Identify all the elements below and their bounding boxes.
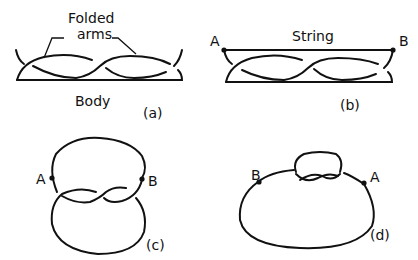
string-label: String (292, 28, 334, 44)
body-label: Body (75, 93, 110, 109)
point-a-dot-c (49, 175, 54, 180)
leader-line-right (112, 38, 136, 54)
point-a-dot-d (361, 180, 366, 185)
arm-twist (33, 56, 170, 78)
string-right-hook (384, 50, 393, 68)
point-a-label: A (210, 33, 220, 49)
body-right-hook (174, 50, 182, 66)
arm-twist-b (242, 58, 378, 80)
panel-d: B A (d) (240, 152, 390, 248)
panel-a: Folded arms Body (a) (16, 10, 182, 121)
point-b-label-c: B (148, 173, 158, 189)
knot-upper-loop (295, 152, 341, 172)
knot-diagram: Folded arms Body (a) A String B (b) A B (0, 0, 418, 260)
caption-b: (b) (340, 97, 360, 113)
point-b-dot-d (256, 179, 261, 184)
lower-loop (52, 189, 145, 254)
arm-lower-right-b (314, 69, 376, 80)
point-a-label-d: A (370, 169, 380, 185)
body-left-hook (16, 50, 24, 64)
arm-lower-right (106, 68, 166, 78)
folded-label: Folded (68, 10, 114, 26)
panel-c: A B (c) (36, 138, 165, 254)
string-left-hook (224, 50, 232, 64)
arms-label: arms (77, 26, 112, 42)
upper-loop (52, 138, 145, 192)
caption-d: (d) (370, 227, 390, 243)
point-b-label: B (399, 33, 409, 49)
caption-c: (c) (146, 237, 165, 253)
point-a-label-c: A (36, 171, 46, 187)
panel-b: A String B (b) (210, 28, 409, 113)
caption-a: (a) (143, 105, 163, 121)
